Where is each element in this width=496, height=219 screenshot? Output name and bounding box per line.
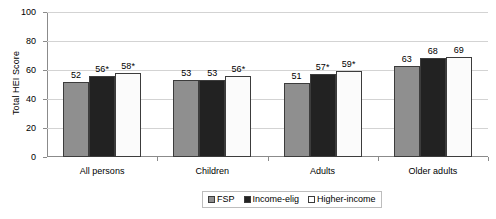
y-axis-line (47, 12, 48, 157)
legend-label: FSP (217, 194, 235, 204)
bar-column: 59* (336, 12, 362, 157)
y-axis-tick-label: 40 (26, 94, 36, 104)
bar-value-label: 56* (232, 64, 246, 74)
bar-group: 5256*58*All persons (59, 12, 145, 157)
y-axis-tick: 40 (43, 99, 47, 100)
bar-column: 52 (63, 12, 89, 157)
bar-column: 63 (394, 12, 420, 157)
y-axis-tick-label: 80 (26, 36, 36, 46)
bar-value-label: 56* (95, 64, 109, 74)
chart-legend: FSP Income-elig Higher-income (202, 191, 382, 208)
x-axis-category-label: Adults (280, 166, 366, 176)
legend-item: Higher-income (308, 194, 376, 204)
bars: 535356* (169, 12, 255, 157)
bar-value-label: 53 (181, 68, 191, 78)
bar-value-label: 51 (292, 71, 302, 81)
y-axis-tick: 80 (43, 41, 47, 42)
bar-group: 5157*59*Adults (280, 12, 366, 157)
bar (89, 76, 115, 157)
legend-item: Income-elig (244, 194, 300, 204)
bar (336, 71, 362, 157)
x-axis-tick (488, 157, 489, 161)
bar (115, 73, 141, 157)
bar-value-label: 69 (454, 45, 464, 55)
legend-swatch-icon (308, 196, 315, 203)
y-axis-tick-label: 100 (21, 7, 36, 17)
x-axis-category-label: All persons (59, 166, 145, 176)
plot-area: 020406080100 5256*58*All persons535356*C… (47, 12, 488, 157)
bar (284, 83, 310, 157)
bar (446, 57, 472, 157)
y-axis-tick-label: 20 (26, 123, 36, 133)
bar-value-label: 59* (342, 59, 356, 69)
bar-value-label: 58* (121, 61, 135, 71)
x-axis-tick (268, 157, 269, 161)
bars: 5157*59* (280, 12, 366, 157)
y-axis-tick-label: 60 (26, 65, 36, 75)
x-axis-category-label: Older adults (390, 166, 476, 176)
bar (310, 74, 336, 157)
bar-column: 68 (420, 12, 446, 157)
bar-value-label: 52 (71, 70, 81, 80)
bar-column: 53 (199, 12, 225, 157)
bar (394, 66, 420, 157)
bar-chart: Total HEI Score 020406080100 5256*58*All… (0, 0, 496, 219)
bar (63, 82, 89, 157)
bar-column: 69 (446, 12, 472, 157)
bars: 5256*58* (59, 12, 145, 157)
bar (225, 76, 251, 157)
x-axis-tick (157, 157, 158, 161)
bar-group: 535356*Children (169, 12, 255, 157)
bar-value-label: 53 (207, 68, 217, 78)
legend-label: Income-elig (253, 194, 300, 204)
bar-column: 51 (284, 12, 310, 157)
bar-column: 53 (173, 12, 199, 157)
bar-value-label: 57* (316, 62, 330, 72)
y-axis-tick: 20 (43, 128, 47, 129)
legend-label: Higher-income (317, 194, 376, 204)
legend-swatch-icon (244, 196, 251, 203)
bars: 636869 (390, 12, 476, 157)
y-axis-tick: 60 (43, 70, 47, 71)
bar-column: 56* (89, 12, 115, 157)
legend-swatch-icon (208, 196, 215, 203)
bar-column: 58* (115, 12, 141, 157)
bar-group: 636869Older adults (390, 12, 476, 157)
bar (199, 80, 225, 157)
x-axis-category-label: Children (169, 166, 255, 176)
y-axis-tick: 100 (43, 12, 47, 13)
bar-value-label: 68 (428, 46, 438, 56)
bar-value-label: 63 (402, 54, 412, 64)
bar (173, 80, 199, 157)
y-axis-tick-label: 0 (31, 152, 36, 162)
legend-item: FSP (208, 194, 235, 204)
bar-column: 57* (310, 12, 336, 157)
y-axis-title: Total HEI Score (11, 23, 21, 143)
x-axis-tick (378, 157, 379, 161)
bar (420, 58, 446, 157)
bar-column: 56* (225, 12, 251, 157)
y-axis-tick: 0 (43, 157, 47, 158)
